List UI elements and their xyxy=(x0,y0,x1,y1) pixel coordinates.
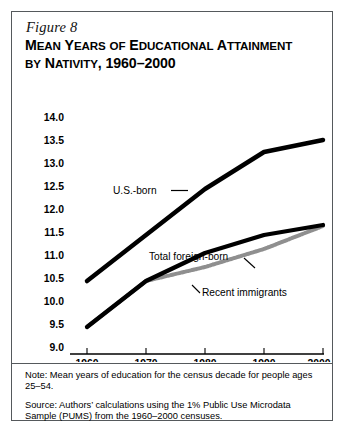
x-label-1960: 1960 xyxy=(75,358,98,362)
y-tick-10-0: 10.0 xyxy=(44,296,64,307)
y-tick-13-0: 13.0 xyxy=(44,158,64,169)
x-label-2000: 2000 xyxy=(307,358,330,362)
y-tick-13-5: 13.5 xyxy=(44,135,64,146)
leader-line-recent-immigrants xyxy=(192,285,200,293)
x-axis-tick-labels: 1960 1970 1980 1990 2000 xyxy=(75,358,330,362)
y-tick-12-5: 12.5 xyxy=(44,181,64,192)
source-text: Source: Authors’ calculations using the … xyxy=(25,400,320,423)
series-line-recent-immigrants xyxy=(87,226,323,327)
x-label-1990: 1990 xyxy=(252,358,275,362)
figure-container: Figure 8 MEAN YEARS OF EDUCATIONAL ATTAI… xyxy=(11,11,333,421)
notes-divider xyxy=(12,363,332,364)
line-chart: 14.0 13.5 13.0 12.5 12.0 11.5 11.0 10.5 … xyxy=(12,72,332,362)
series-label-recent-immigrants: Recent immigrants xyxy=(202,287,287,298)
note-text: Note: Mean years of education for the ce… xyxy=(25,370,320,393)
x-axis-ticks xyxy=(87,348,323,354)
figure-notes: Note: Mean years of education for the ce… xyxy=(25,370,320,430)
series-label-us-born: U.S.-born xyxy=(113,185,157,196)
y-tick-12-0: 12.0 xyxy=(44,204,64,215)
y-tick-9-5: 9.5 xyxy=(50,319,65,330)
figure-title-line-2: BY NATIVITY, 1960–2000 xyxy=(25,55,325,73)
figure-caption: Figure 8 xyxy=(26,19,77,36)
leader-line-total-foreign-born xyxy=(244,258,255,268)
x-label-1970: 1970 xyxy=(134,358,157,362)
y-tick-14-0: 14.0 xyxy=(44,112,64,123)
y-tick-11-0: 11.0 xyxy=(44,250,64,261)
y-tick-10-5: 10.5 xyxy=(44,273,64,284)
x-label-1980: 1980 xyxy=(193,358,216,362)
series-label-total-foreign-born: Total foreign-born xyxy=(149,251,228,262)
y-tick-11-5: 11.5 xyxy=(44,227,64,238)
chart-plot-area: 14.0 13.5 13.0 12.5 12.0 11.5 11.0 10.5 … xyxy=(12,72,332,362)
y-tick-9-0: 9.0 xyxy=(50,342,65,353)
page-title: MEAN YEARS OF EDUCATIONAL ATTAINMENT BY … xyxy=(25,37,325,72)
y-axis-tick-labels: 14.0 13.5 13.0 12.5 12.0 11.5 11.0 10.5 … xyxy=(44,112,64,353)
figure-title-line-1: MEAN YEARS OF EDUCATIONAL ATTAINMENT xyxy=(25,37,325,55)
